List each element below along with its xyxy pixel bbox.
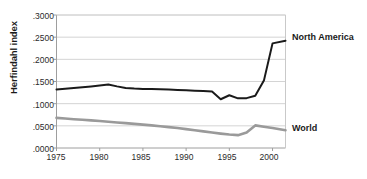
x-tick-label: 1985 [124,152,158,162]
series-line-world [57,118,286,135]
x-tick-label: 2000 [252,152,286,162]
y-tick-label: .1000 [20,100,54,110]
x-tick-label: 1975 [39,152,73,162]
x-tick-label: 1980 [82,152,116,162]
y-tick-label: .0500 [20,122,54,132]
series-label-north-america: North America [292,32,354,42]
series-label-world: World [292,123,317,133]
x-tick-label: 1995 [210,152,244,162]
y-tick-label: .1500 [20,77,54,87]
y-tick-label: .2000 [20,55,54,65]
y-tick-label: .2500 [20,33,54,43]
chart-figure: Herfindahl index .3000 .2500 .2000 .1500… [0,0,367,179]
y-tick-label: .3000 [20,11,54,21]
series-line-north-america [57,41,286,100]
x-tick-label: 1990 [167,152,201,162]
